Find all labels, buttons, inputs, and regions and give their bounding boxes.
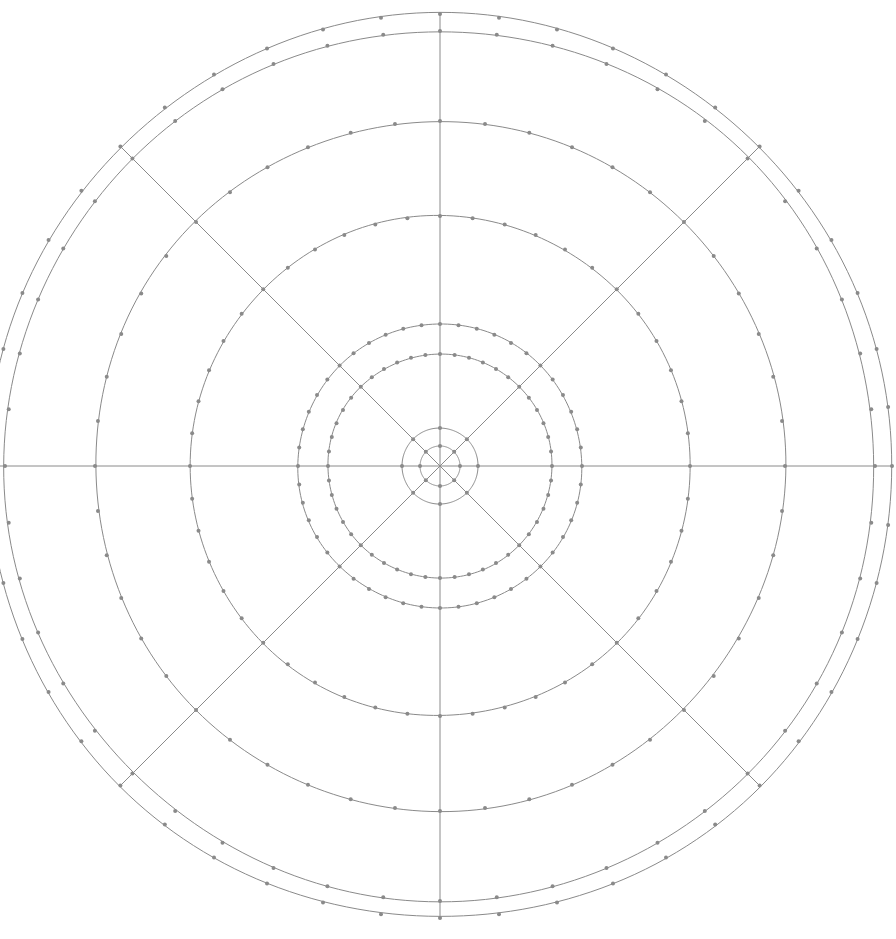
tick-dot — [265, 882, 269, 886]
tick-dot — [497, 16, 501, 20]
tick-dot — [79, 739, 83, 743]
tick-dot — [194, 708, 198, 712]
tick-dot — [524, 577, 528, 581]
tick-dot — [561, 393, 565, 397]
tick-dot — [240, 312, 244, 316]
tick-dot — [483, 122, 487, 126]
tick-dot — [648, 190, 652, 194]
tick-dot — [555, 27, 559, 31]
tick-dot — [713, 105, 717, 109]
tick-dot — [890, 464, 894, 468]
tick-dot — [272, 866, 276, 870]
tick-dot — [829, 690, 833, 694]
tick-dot — [3, 464, 7, 468]
tick-dot — [438, 12, 442, 16]
tick-dot — [330, 493, 334, 497]
tick-dot — [538, 364, 542, 368]
tick-dot — [373, 223, 377, 227]
tick-dot — [527, 797, 531, 801]
tick-dot — [119, 596, 123, 600]
tick-dot — [307, 518, 311, 522]
tick-dot — [783, 464, 787, 468]
tick-dot — [370, 375, 374, 379]
tick-dot — [611, 46, 615, 50]
tick-dot — [561, 535, 565, 539]
tick-dot — [315, 535, 319, 539]
tick-dot — [335, 507, 339, 511]
tick-dot — [452, 478, 456, 482]
tick-dot — [382, 561, 386, 565]
tick-dot — [438, 502, 442, 506]
tick-dot — [379, 16, 383, 20]
tick-dot — [381, 895, 385, 899]
tick-dot — [221, 87, 225, 91]
tick-dot — [438, 214, 442, 218]
tick-dot — [551, 550, 555, 554]
tick-dot — [297, 445, 301, 449]
tick-dot — [481, 567, 485, 571]
tick-dot — [382, 367, 386, 371]
tick-dot — [401, 601, 405, 605]
tick-dot — [656, 841, 660, 845]
tick-dot — [405, 712, 409, 716]
tick-dot — [475, 327, 479, 331]
tick-dot — [173, 119, 177, 123]
tick-dot — [546, 435, 550, 439]
tick-dot — [190, 497, 194, 501]
tick-dot — [409, 356, 413, 360]
tick-dot — [636, 312, 640, 316]
tick-dot — [36, 630, 40, 634]
tick-dot — [301, 427, 305, 431]
tick-dot — [79, 189, 83, 193]
tick-dot — [712, 674, 716, 678]
tick-dot — [393, 122, 397, 126]
tick-dot — [682, 220, 686, 224]
tick-dot — [349, 396, 353, 400]
tick-dot — [212, 855, 216, 859]
tick-dot — [737, 292, 741, 296]
tick-dot — [580, 464, 584, 468]
tick-dot — [590, 266, 594, 270]
tick-dot — [797, 739, 801, 743]
tick-dot — [93, 199, 97, 203]
tick-dot — [373, 705, 377, 709]
tick-dot — [313, 681, 317, 685]
tick-dot — [212, 73, 216, 77]
tick-dot — [783, 199, 787, 203]
tick-dot — [538, 564, 542, 568]
tick-dot — [272, 62, 276, 66]
tick-dot — [306, 783, 310, 787]
tick-dot — [301, 501, 305, 505]
tick-dot — [506, 553, 510, 557]
tick-dot — [240, 616, 244, 620]
tick-dot — [457, 323, 461, 327]
tick-dot — [297, 483, 301, 487]
tick-dot — [688, 464, 692, 468]
tick-dot — [105, 375, 109, 379]
tick-dot — [367, 341, 371, 345]
tick-dot — [703, 119, 707, 123]
tick-dot — [221, 589, 225, 593]
tick-dot — [679, 529, 683, 533]
tick-dot — [686, 497, 690, 501]
tick-dot — [188, 464, 192, 468]
tick-dot — [465, 491, 469, 495]
tick-dot — [306, 145, 310, 149]
tick-dot — [96, 509, 100, 513]
tick-dot — [438, 484, 442, 488]
tick-dot — [509, 587, 513, 591]
tick-dot — [780, 509, 784, 513]
tick-dot — [457, 605, 461, 609]
tick-dot — [541, 507, 545, 511]
tick-dot — [118, 784, 122, 788]
tick-dot — [713, 823, 717, 827]
tick-dot — [221, 339, 225, 343]
tick-dot — [265, 46, 269, 50]
tick-dot — [467, 356, 471, 360]
tick-dot — [315, 393, 319, 397]
tick-dot — [549, 479, 553, 483]
tick-dot — [163, 823, 167, 827]
tick-dot — [471, 712, 475, 716]
tick-dot — [655, 339, 659, 343]
tick-dot — [207, 560, 211, 564]
